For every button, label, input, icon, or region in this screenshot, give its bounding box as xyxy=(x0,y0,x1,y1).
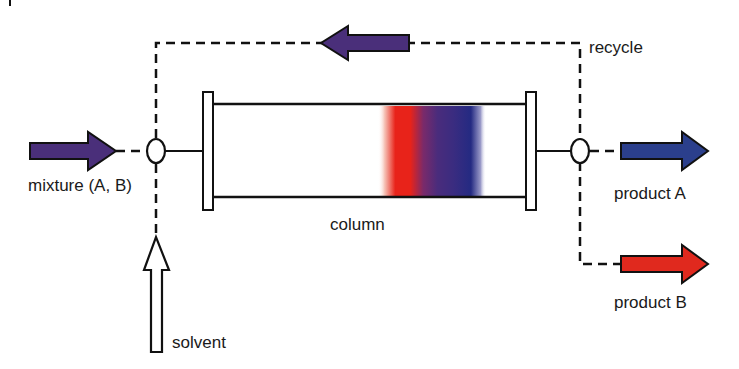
column-outlet-cap xyxy=(526,92,536,210)
solvent-label: solvent xyxy=(172,334,226,351)
product-b-arrow-icon xyxy=(621,245,708,283)
mixture-arrow-icon xyxy=(30,132,116,170)
product-b-line xyxy=(580,162,620,264)
product-a-arrow-icon xyxy=(621,132,708,170)
inlet-valve xyxy=(147,139,165,163)
product-b-label: product B xyxy=(614,294,687,311)
column xyxy=(203,92,536,210)
column-label: column xyxy=(330,216,385,233)
solvent-arrow-icon xyxy=(144,237,169,352)
product-a-label: product A xyxy=(614,185,686,202)
recycle-arrow-icon xyxy=(321,26,409,60)
column-inlet-cap xyxy=(203,92,213,210)
separation-band xyxy=(378,106,486,196)
mixture-label: mixture (A, B) xyxy=(28,177,132,194)
recycle-label: recycle xyxy=(589,39,643,56)
outlet-valve xyxy=(571,139,589,163)
